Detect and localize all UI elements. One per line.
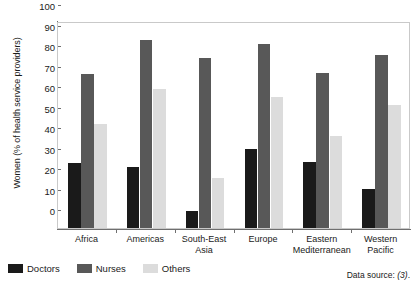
y-tick-80: 80 bbox=[44, 37, 58, 55]
bar-doctors-africa bbox=[68, 163, 81, 228]
y-tick-60: 60 bbox=[44, 78, 58, 96]
x-axis-label-line: Western bbox=[351, 234, 410, 245]
bar-nurses-europe bbox=[258, 44, 271, 229]
y-tick-70: 70 bbox=[44, 58, 58, 76]
x-axis-label-south-east-asia: South-East Asia bbox=[175, 234, 234, 255]
x-axis-label-line: Africa bbox=[57, 234, 116, 245]
bar-doctors-americas bbox=[127, 167, 140, 229]
legend-item-others[interactable]: Others bbox=[143, 263, 191, 274]
y-tick-0: 0 bbox=[50, 201, 58, 219]
bar-others-eastern-mediterranean bbox=[330, 136, 343, 228]
bar-group bbox=[68, 23, 107, 228]
legend-item-nurses[interactable]: Nurses bbox=[77, 263, 126, 274]
bar-chart-figure: Women (% of health service providers) 01… bbox=[0, 0, 418, 286]
y-tick-90: 90 bbox=[44, 17, 58, 35]
x-axis-separator bbox=[116, 229, 117, 233]
y-tick-20: 20 bbox=[44, 160, 58, 178]
y-tick-100: 100 bbox=[39, 0, 58, 14]
bar-nurses-eastern-mediterranean bbox=[316, 73, 329, 228]
bar-group bbox=[362, 23, 401, 228]
y-tick-label: 50 bbox=[44, 104, 58, 115]
chart-legend: DoctorsNursesOthers bbox=[8, 263, 207, 274]
x-axis-label-line: Mediterranean bbox=[292, 245, 351, 256]
y-tick-label: 70 bbox=[44, 63, 58, 74]
x-axis-label-eastern-mediterranean: EasternMediterranean bbox=[292, 234, 351, 255]
y-tick-label: 10 bbox=[44, 186, 58, 197]
bar-nurses-africa bbox=[81, 74, 94, 228]
y-tick-label: 40 bbox=[44, 124, 58, 135]
y-axis-title: Women (% of health service providers) bbox=[12, 8, 22, 218]
bar-others-africa bbox=[94, 124, 107, 228]
y-tick-40: 40 bbox=[44, 119, 58, 137]
x-axis-label-line: Americas bbox=[116, 234, 175, 245]
y-tick-label: 80 bbox=[44, 42, 58, 53]
bar-doctors-eastern-mediterranean bbox=[303, 162, 316, 228]
legend-swatch-doctors bbox=[8, 264, 23, 273]
bar-doctors-south-east-asia bbox=[186, 211, 199, 228]
data-source-reference: (3) bbox=[397, 270, 407, 280]
x-axis-separator bbox=[175, 229, 176, 233]
x-axis-separator bbox=[234, 229, 235, 233]
x-axis-label-western-pacific: WesternPacific bbox=[351, 234, 410, 255]
y-tick-mark bbox=[58, 26, 61, 27]
x-axis-label-line: Pacific bbox=[351, 245, 410, 256]
x-axis-label-line: Eastern bbox=[292, 234, 351, 245]
y-tick-label: 60 bbox=[44, 83, 58, 94]
y-tick-mark bbox=[58, 149, 61, 150]
bar-nurses-western-pacific bbox=[375, 55, 388, 228]
legend-item-doctors[interactable]: Doctors bbox=[8, 263, 60, 274]
y-tick-mark bbox=[58, 67, 61, 68]
bar-group bbox=[245, 23, 284, 228]
x-axis-label-line: South-East Asia bbox=[175, 234, 234, 255]
data-source-label: Data source: bbox=[347, 270, 395, 280]
legend-label: Nurses bbox=[96, 263, 126, 274]
data-source-note: Data source: (3). bbox=[347, 270, 410, 280]
y-tick-label: 90 bbox=[44, 22, 58, 33]
bar-others-americas bbox=[153, 89, 166, 228]
legend-swatch-nurses bbox=[77, 264, 92, 273]
y-tick-mark bbox=[58, 87, 61, 88]
bar-group bbox=[127, 23, 166, 228]
legend-label: Others bbox=[162, 263, 191, 274]
legend-swatch-others bbox=[143, 264, 158, 273]
y-tick-label: 20 bbox=[44, 165, 58, 176]
bar-group bbox=[303, 23, 342, 228]
y-tick-mark bbox=[58, 108, 61, 109]
bar-nurses-americas bbox=[140, 40, 153, 228]
y-tick-label: 30 bbox=[44, 145, 58, 156]
bar-others-western-pacific bbox=[388, 105, 401, 228]
y-tick-mark bbox=[58, 128, 61, 129]
bar-nurses-south-east-asia bbox=[199, 58, 212, 228]
y-tick-mark bbox=[58, 210, 61, 211]
x-axis-label-americas: Americas bbox=[116, 234, 175, 245]
y-tick-30: 30 bbox=[44, 140, 58, 158]
data-source-trailer: . bbox=[408, 270, 410, 280]
y-tick-label: 100 bbox=[39, 1, 58, 12]
bar-group bbox=[186, 23, 225, 228]
bar-doctors-western-pacific bbox=[362, 189, 375, 228]
y-tick-mark bbox=[58, 169, 61, 170]
legend-label: Doctors bbox=[27, 263, 60, 274]
y-tick-label: 0 bbox=[50, 206, 58, 217]
x-axis-label-europe: Europe bbox=[234, 234, 293, 245]
y-tick-mark bbox=[58, 190, 61, 191]
bar-others-south-east-asia bbox=[212, 178, 225, 228]
x-axis-label-line: Europe bbox=[234, 234, 293, 245]
bar-doctors-europe bbox=[245, 149, 258, 228]
bar-others-europe bbox=[271, 97, 284, 228]
plot-area: 0102030405060708090100 bbox=[57, 22, 410, 229]
y-tick-50: 50 bbox=[44, 99, 58, 117]
x-axis-separator bbox=[292, 229, 293, 233]
x-axis-separator bbox=[351, 229, 352, 233]
y-tick-mark bbox=[58, 46, 61, 47]
y-tick-10: 10 bbox=[44, 181, 58, 199]
x-axis-label-africa: Africa bbox=[57, 234, 116, 245]
y-tick-mark bbox=[58, 5, 61, 6]
